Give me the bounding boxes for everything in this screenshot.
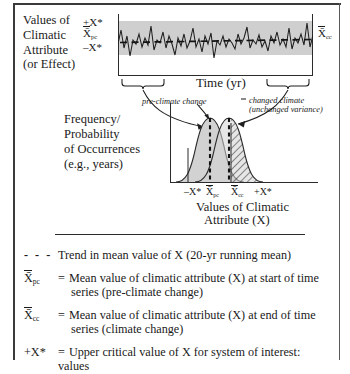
dist-ylabel-line-3: of Occurrences xyxy=(64,142,140,157)
xbar-glyph: X̄ xyxy=(24,271,33,286)
legend-equals-plus-x-star: = xyxy=(58,345,65,359)
ts-ylabel-line-2: Climatic xyxy=(23,28,75,43)
legend-text-plus-x-star: =Upper critical value of X for system of… xyxy=(58,345,334,374)
legend-entry-xpc: X̄pc =Mean value of climatic attribute (… xyxy=(24,271,334,300)
distribution-curves-svg xyxy=(170,103,318,185)
xbar-glyph: X̄ xyxy=(231,186,238,197)
dist-ylabel-line-2: Probability xyxy=(64,127,140,142)
timeseries-y-axis-label: Values of Climatic Attribute (or Effect) xyxy=(23,13,75,72)
legend-trend-line-1: Trend in mean value of X (20-yr running … xyxy=(58,248,291,262)
ts-ytick-mean-pc: X̄pc xyxy=(83,27,97,41)
xbar-glyph: X̄ xyxy=(83,27,91,39)
dist-ylabel-line-1: Frequency/ xyxy=(64,112,140,127)
frame-right-rule xyxy=(339,3,340,360)
legend-xpc-line-1: Mean value of climatic attribute (X) at … xyxy=(69,271,319,285)
dist-xtick-plus-x-star: +X* xyxy=(254,186,272,197)
dist-xtick-minus-x-star: –X* xyxy=(184,186,201,197)
timeseries-plot xyxy=(118,14,313,66)
legend-equals-xpc: = xyxy=(58,271,65,285)
legend-entry-trend: - - - Trend in mean value of X (20-yr ru… xyxy=(24,248,334,263)
xbar-subscript: pc xyxy=(33,277,40,286)
ts-ylabel-line-1: Values of xyxy=(23,13,75,28)
ts-right-marker-xcc: X̄cc xyxy=(318,27,332,41)
legend-block: - - - Trend in mean value of X (20-yr ru… xyxy=(24,248,334,374)
xbar-subscript: pc xyxy=(91,33,97,40)
xbar-subscript: cc xyxy=(326,33,332,40)
dist-caption-line-2: Attribute (X) xyxy=(204,213,270,227)
xbar-subscript: pc xyxy=(213,191,219,198)
dist-xtick-mean-pc: X̄pc xyxy=(206,186,219,199)
timeseries-series-svg xyxy=(118,14,313,76)
legend-key-xcc: X̄cc xyxy=(24,308,58,337)
legend-entry-plus-x-star: +X* =Upper critical value of X for syste… xyxy=(24,345,334,374)
ts-ylabel-line-3: Attribute xyxy=(23,43,75,58)
legend-key-xpc: X̄pc xyxy=(24,271,58,300)
xbar-glyph: X̄ xyxy=(318,27,326,39)
xbar-glyph: X̄ xyxy=(24,308,33,323)
legend-key-plus-x-star: +X* xyxy=(24,345,58,374)
ts-ytick-lower-critical: –X* xyxy=(83,41,102,53)
distribution-plot xyxy=(170,103,318,185)
legend-entry-xcc: X̄cc =Mean value of climatic attribute (… xyxy=(24,308,334,337)
legend-text-xpc: =Mean value of climatic attribute (X) at… xyxy=(58,271,334,300)
legend-xpc-line-2: series (pre-climate change) xyxy=(58,285,334,299)
distribution-y-axis-label: Frequency/ Probability of Occurrences (e… xyxy=(64,112,140,172)
dist-caption-line-1: Values of Climatic xyxy=(196,200,289,214)
dist-xtick-mean-cc: X̄cc xyxy=(231,186,243,199)
dist-ylabel-line-4: (e.g., years) xyxy=(64,157,140,172)
timeseries-x-axis-label: Time (yr) xyxy=(196,76,246,91)
legend-text-trend: Trend in mean value of X (20-yr running … xyxy=(58,248,334,263)
xbar-glyph: X̄ xyxy=(206,186,213,197)
ts-ylabel-line-4: (or Effect) xyxy=(23,57,75,72)
frame-left-rule xyxy=(13,3,15,360)
legend-text-xcc: =Mean value of climatic attribute (X) at… xyxy=(58,308,334,337)
xbar-subscript: cc xyxy=(238,191,243,198)
legend-plus-x-star-line-1: Upper critical value of X for system of … xyxy=(58,345,300,373)
legend-equals-xcc: = xyxy=(58,308,65,322)
legend-separator-rule xyxy=(55,234,305,235)
legend-xcc-line-1: Mean value of climatic attribute (X) at … xyxy=(69,308,316,322)
xbar-subscript: cc xyxy=(33,314,39,323)
frame-top-rule xyxy=(13,3,341,5)
legend-xcc-line-2: series (climate change) xyxy=(58,322,334,336)
legend-key-dashed-line: - - - xyxy=(24,248,58,263)
